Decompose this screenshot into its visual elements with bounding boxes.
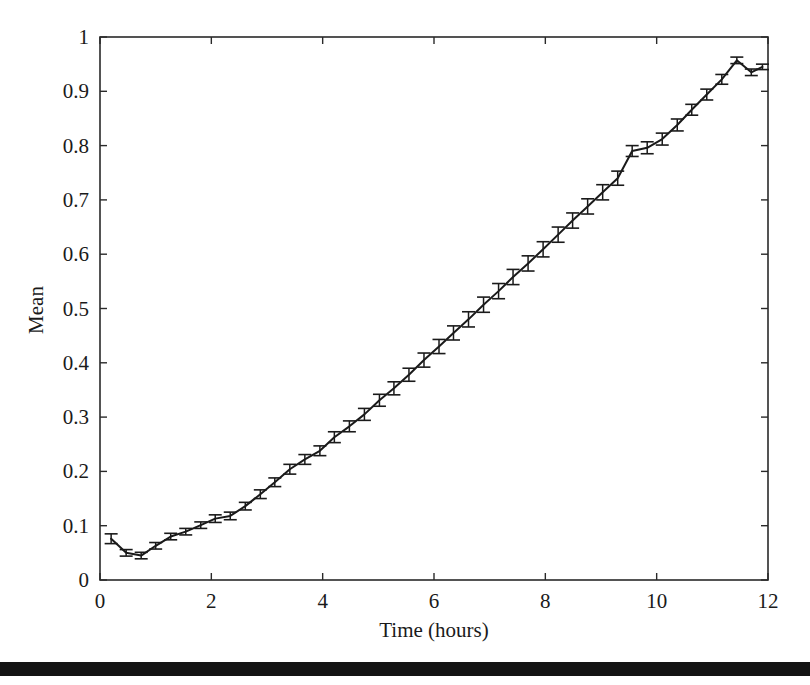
y-tick-label-9: 0.9 bbox=[63, 79, 89, 103]
x-tick-label-6: 12 bbox=[758, 589, 779, 613]
y-tick-label-1: 0.1 bbox=[63, 514, 89, 538]
y-tick-label-3: 0.3 bbox=[63, 405, 89, 429]
y-axis-title: Mean bbox=[24, 286, 48, 334]
y-tick-label-6: 0.6 bbox=[63, 242, 89, 266]
x-tick-label-5: 10 bbox=[646, 589, 667, 613]
x-tick-label-4: 8 bbox=[540, 589, 551, 613]
y-tick-label-0: 0 bbox=[79, 568, 90, 592]
figure-container: 024681012 00.10.20.30.40.50.60.70.80.91 … bbox=[0, 0, 810, 685]
y-tick-label-4: 0.4 bbox=[63, 351, 90, 375]
x-tick-label-3: 6 bbox=[429, 589, 440, 613]
y-tick-label-2: 0.2 bbox=[63, 459, 89, 483]
y-tick-label-8: 0.8 bbox=[63, 134, 89, 158]
mean-vs-time-chart: 024681012 00.10.20.30.40.50.60.70.80.91 … bbox=[0, 0, 810, 685]
y-tick-label-10: 1 bbox=[79, 25, 90, 49]
chart-background bbox=[0, 0, 810, 685]
x-tick-label-1: 2 bbox=[206, 589, 217, 613]
x-tick-label-2: 4 bbox=[317, 589, 328, 613]
x-tick-label-0: 0 bbox=[95, 589, 106, 613]
x-axis-title: Time (hours) bbox=[379, 618, 488, 642]
y-tick-label-5: 0.5 bbox=[63, 297, 89, 321]
y-tick-label-7: 0.7 bbox=[63, 188, 89, 212]
page-edge-bar bbox=[0, 662, 810, 676]
